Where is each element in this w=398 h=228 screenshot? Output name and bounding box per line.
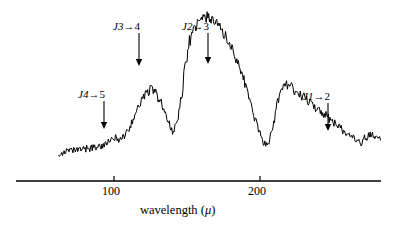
- down-arrow-icon-J2-to-3: [205, 57, 211, 64]
- right-arrow-icon: →: [313, 90, 324, 102]
- annotation-label-j4-5: J4→5: [78, 88, 105, 100]
- annotation-label-j3-4: J3→4: [113, 20, 140, 32]
- x-axis-title: wavelength (μ): [140, 203, 215, 218]
- x-tick-label-200: 200: [248, 184, 266, 199]
- annotation-label-j1-2: J1→2: [303, 90, 330, 102]
- right-arrow-icon: →: [192, 20, 203, 32]
- right-arrow-icon: →: [88, 88, 99, 100]
- down-arrow-icon-J3-to-4: [136, 59, 142, 66]
- annotation-to-level: 3: [203, 20, 209, 32]
- right-arrow-icon: →: [123, 20, 134, 32]
- x-axis-unit-close: ): [211, 203, 215, 217]
- spectrum-figure: J4→5 J3→4 J2→3 J1→2 100 200 wavelength (…: [0, 0, 398, 228]
- x-axis-title-text: wavelength: [140, 203, 198, 217]
- x-axis-ticks: [114, 176, 260, 181]
- x-tick-label-100: 100: [102, 184, 120, 199]
- down-arrow-icon-J4-to-5: [101, 122, 107, 129]
- spectrum-trace: [59, 12, 381, 157]
- annotation-to-level: 4: [134, 20, 140, 32]
- spectrum-plot-svg: [0, 0, 398, 228]
- annotation-arrows: [101, 33, 331, 131]
- annotation-label-j2-3: J2→3: [182, 20, 209, 32]
- down-arrow-icon-J1-to-2: [325, 124, 331, 131]
- annotation-to-level: 2: [324, 90, 330, 102]
- annotation-to-level: 5: [99, 88, 105, 100]
